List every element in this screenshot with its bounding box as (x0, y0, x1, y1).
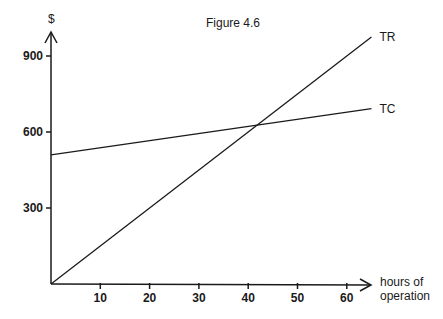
y-axis-label: $ (48, 12, 55, 26)
x-tick-label: 40 (242, 291, 256, 305)
series-line-tc (51, 109, 371, 155)
x-ticks: 102030405060 (94, 283, 354, 305)
x-tick-label: 10 (94, 291, 108, 305)
x-axis (51, 279, 371, 291)
x-tick-label: 30 (192, 291, 206, 305)
y-tick-label: 900 (23, 49, 43, 63)
x-tick-label: 20 (143, 291, 157, 305)
y-axis (45, 32, 57, 284)
x-tick-label: 50 (291, 291, 305, 305)
x-axis-label-line2: operation (380, 289, 430, 303)
series-label-tc: TC (379, 102, 395, 116)
y-tick-label: 600 (23, 125, 43, 139)
chart-title: Figure 4.6 (206, 16, 260, 30)
y-tick-label: 300 (23, 201, 43, 215)
series-line-tr (51, 37, 371, 284)
x-tick-label: 60 (340, 291, 354, 305)
series-label-tr: TR (379, 30, 395, 44)
series-lines: TRTC (51, 30, 396, 284)
x-axis-label-line1: hours of (380, 275, 424, 289)
chart: Figure 4.6 $ hours of operation 30060090… (0, 0, 443, 319)
y-ticks: 300600900 (23, 49, 51, 215)
